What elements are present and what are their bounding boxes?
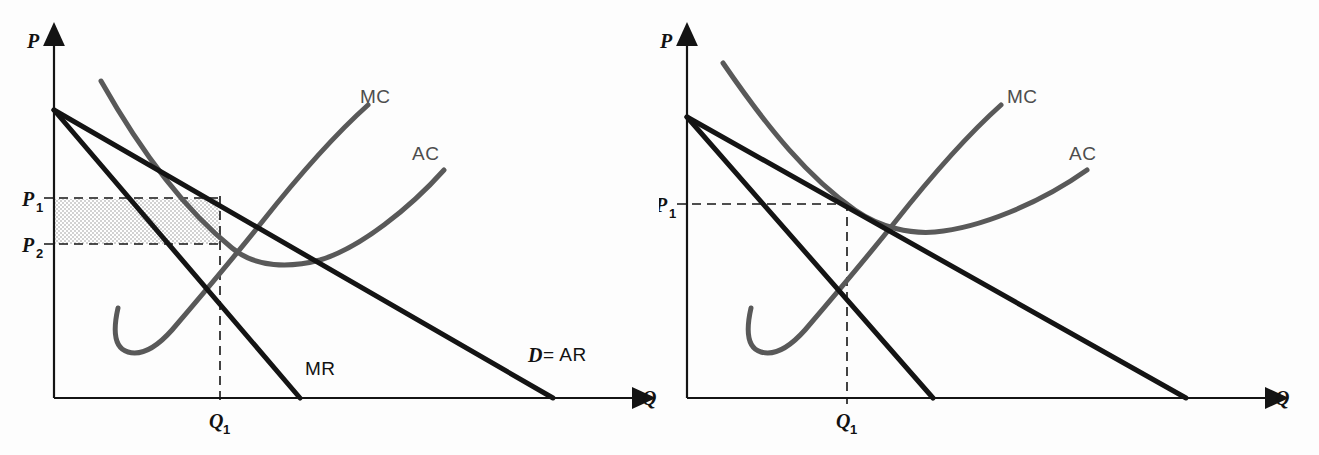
- x-axis-label: Q: [642, 387, 656, 409]
- y-axis-label: P: [26, 30, 40, 52]
- svg-text:1: 1: [36, 200, 43, 215]
- quantity-tick-q1: Q 1: [209, 410, 230, 437]
- average-cost-label: AC: [412, 143, 439, 164]
- price-tick-p1: P 1: [659, 194, 676, 221]
- economics-figure: P Q P 1 P 2 Q 1 MC AC MR D = AR: [0, 0, 1319, 455]
- quantity-tick-q1: Q 1: [836, 410, 857, 437]
- price-tick-p1: P 1: [21, 188, 43, 215]
- svg-text:= AR: = AR: [543, 344, 587, 365]
- y-axis-label: P: [659, 30, 673, 52]
- demand-average-revenue-line: [687, 117, 1186, 398]
- svg-text:1: 1: [223, 422, 230, 437]
- svg-text:2: 2: [36, 246, 43, 261]
- svg-text:P: P: [21, 234, 35, 256]
- x-axis-label: Q: [1275, 387, 1289, 409]
- svg-text:1: 1: [850, 422, 857, 437]
- svg-text:P: P: [21, 188, 35, 210]
- svg-text:Q: Q: [836, 410, 850, 432]
- svg-text:1: 1: [669, 206, 676, 221]
- svg-text:Q: Q: [209, 410, 223, 432]
- panel-short-run-equilibrium: P Q P 1 P 2 Q 1 MC AC MR D = AR: [0, 0, 660, 455]
- average-cost-label: AC: [1069, 143, 1096, 164]
- marginal-revenue-line: [687, 117, 933, 398]
- panel-long-run-equilibrium: P Q P 1 Q 1 MC AC: [659, 0, 1319, 455]
- svg-text:D: D: [527, 344, 542, 366]
- marginal-cost-label: MC: [1007, 86, 1038, 107]
- marginal-revenue-line: [54, 110, 300, 398]
- svg-text:P: P: [659, 194, 668, 216]
- marginal-cost-label: MC: [360, 86, 391, 107]
- right-panel-plot: P Q P 1 Q 1 MC AC: [659, 0, 1319, 455]
- marginal-revenue-label: MR: [305, 358, 336, 379]
- left-panel-plot: P Q P 1 P 2 Q 1 MC AC MR D = AR: [0, 0, 660, 455]
- demand-equals-ar-label: D = AR: [527, 344, 587, 366]
- demand-average-revenue-line: [54, 110, 553, 398]
- price-tick-p2: P 2: [21, 234, 43, 261]
